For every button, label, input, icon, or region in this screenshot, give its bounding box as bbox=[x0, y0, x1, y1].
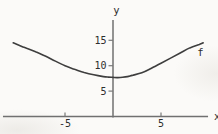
x-tick-label: 5 bbox=[158, 118, 164, 129]
y-tick-label: 5 bbox=[100, 86, 106, 97]
graph-canvas: -5551015fyx bbox=[0, 0, 218, 134]
x-axis-label: x bbox=[214, 110, 218, 122]
y-tick-label: 10 bbox=[94, 60, 106, 71]
y-tick-label: 15 bbox=[94, 35, 106, 46]
x-tick-label: -5 bbox=[59, 118, 71, 129]
curve-label-f: f bbox=[197, 46, 203, 58]
curve-f bbox=[13, 43, 203, 78]
y-axis-label: y bbox=[113, 4, 119, 16]
scanned-graph-figure: -5551015fyx bbox=[0, 0, 218, 134]
